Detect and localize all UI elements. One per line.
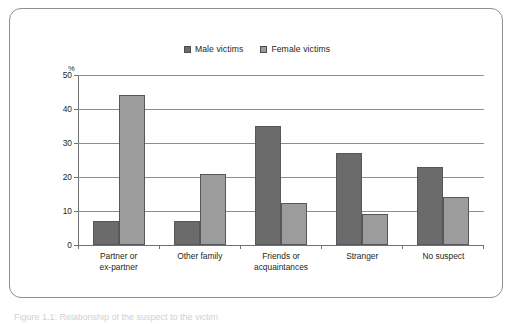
- x-tick-mark-4: [402, 245, 403, 249]
- x-label-stranger: Stranger: [322, 251, 403, 272]
- x-label-line-1: No suspect: [403, 251, 484, 262]
- chart-panel: Male victims Female victims % 50 40: [9, 8, 503, 298]
- x-label-other-family: Other family: [159, 251, 240, 272]
- x-axis-labels: Partner or ex-partner Other family Frien…: [78, 251, 484, 272]
- y-tick-label-40: 40: [63, 105, 72, 113]
- x-label-line-2: acquaintances: [240, 262, 321, 273]
- y-tick-label-20: 20: [63, 173, 72, 181]
- x-axis-line: [78, 245, 484, 246]
- figure-root: Male victims Female victims % 50 40: [0, 0, 515, 324]
- x-tick-mark-1: [159, 245, 160, 249]
- x-label-friends-or-acquaintances: Friends or acquaintances: [240, 251, 321, 272]
- x-label-partner-or-ex-partner: Partner or ex-partner: [78, 251, 159, 272]
- y-tick-label-50: 50: [63, 71, 72, 79]
- y-tick-label-30: 30: [63, 139, 72, 147]
- x-label-line-1: Other family: [159, 251, 240, 262]
- x-label-line-1: Stranger: [322, 251, 403, 262]
- plot-wrap: % 50 40 30 20 10 0: [10, 9, 504, 299]
- x-tick-mark-0: [78, 245, 79, 249]
- figure-caption-strip: Figure 1.1: Relationship of the suspect …: [14, 314, 501, 324]
- x-tick-mark-2: [240, 245, 241, 249]
- x-label-no-suspect: No suspect: [403, 251, 484, 272]
- x-label-line-2: ex-partner: [78, 262, 159, 273]
- x-label-line-1: Partner or: [78, 251, 159, 262]
- x-label-line-1: Friends or: [240, 251, 321, 262]
- figure-caption: Figure 1.1: Relationship of the suspect …: [14, 314, 501, 323]
- y-tick-label-0: 0: [67, 241, 72, 249]
- y-tick-label-10: 10: [63, 207, 72, 215]
- x-tick-mark-5: [483, 245, 484, 249]
- x-tick-mark-3: [321, 245, 322, 249]
